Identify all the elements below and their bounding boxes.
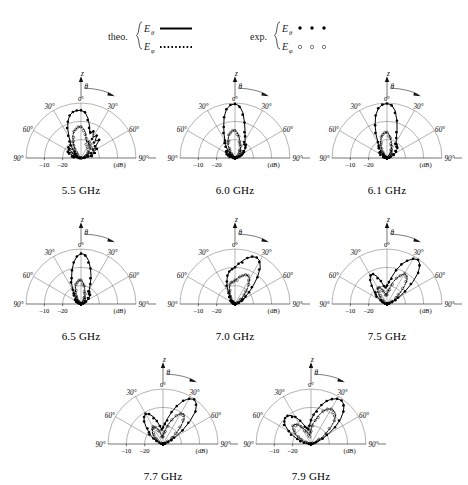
polar-plot-panel: zθx0°30°30°60°60°90°90°–10–20(dB)6.0 GHz xyxy=(160,72,310,212)
radial-unit-label: (dB) xyxy=(420,307,432,315)
z-axis-label: z xyxy=(310,358,314,364)
marker-e-theta-measured xyxy=(299,440,302,443)
polar-plot-svg: zθx0°30°30°60°60°90°90°–10–20(dB) xyxy=(236,358,386,466)
marker-e-theta-measured xyxy=(234,303,237,306)
marker-e-theta-measured xyxy=(255,256,258,259)
theta-symbol-label: θ xyxy=(239,83,243,91)
legend-exp-e-phi-base: E xyxy=(281,41,288,52)
marker-e-theta-measured xyxy=(240,300,243,303)
marker-e-theta-measured xyxy=(231,268,234,271)
marker-e-theta-measured xyxy=(87,297,90,300)
marker-e-theta-measured xyxy=(400,263,403,266)
marker-e-theta-measured xyxy=(82,157,85,160)
angle-label-right-60: 60° xyxy=(435,272,445,280)
radiation-pattern-figure: theo. E θ E φ exp. E θ E φ xyxy=(0,0,468,485)
angle-label-left-60: 60° xyxy=(253,412,263,420)
marker-e-phi-measured xyxy=(332,411,335,414)
angle-label-right-30: 30° xyxy=(412,103,423,111)
theta-direction-arrow: θ xyxy=(238,83,269,96)
marker-e-theta-measured xyxy=(320,404,323,407)
polar-plot-svg: zθx0°30°30°60°60°90°90°–10–20(dB) xyxy=(6,72,156,180)
marker-e-theta-measured xyxy=(90,152,93,155)
marker-e-theta-measured xyxy=(86,119,89,122)
marker-e-theta-measured xyxy=(310,443,313,446)
angle-label-0: 0° xyxy=(232,241,238,248)
measured-markers xyxy=(143,397,198,445)
marker-e-theta-measured xyxy=(374,293,377,296)
legend-theo-brace-icon xyxy=(137,22,143,49)
marker-e-theta-measured xyxy=(374,124,377,127)
marker-e-theta-measured xyxy=(68,140,71,143)
radial-tick-label-minus10: –10 xyxy=(192,161,204,168)
radial-tick-label-minus20: –20 xyxy=(363,307,375,314)
marker-e-theta-measured xyxy=(93,152,96,155)
marker-e-theta-measured xyxy=(331,398,334,401)
marker-e-theta-measured xyxy=(418,264,421,267)
z-axis-label: z xyxy=(234,72,238,78)
marker-e-theta-measured xyxy=(251,286,254,289)
theta-direction-arrow: θ xyxy=(390,83,421,96)
marker-e-theta-measured xyxy=(89,131,92,134)
angle-label-left-60: 60° xyxy=(105,412,115,420)
marker-e-phi-measured xyxy=(85,143,88,146)
marker-e-theta-measured xyxy=(325,400,328,403)
marker-e-theta-measured xyxy=(256,276,259,279)
marker-e-theta-measured xyxy=(187,421,190,424)
marker-e-theta-measured xyxy=(72,111,75,114)
marker-e-theta-measured xyxy=(326,434,329,437)
angle-label-right-60: 60° xyxy=(359,412,369,420)
radial-tick-label-minus10: –10 xyxy=(120,447,132,454)
marker-e-theta-measured xyxy=(382,153,385,156)
angle-label-0: 0° xyxy=(308,381,314,388)
marker-e-theta-measured xyxy=(68,114,71,117)
angle-label-right-30: 30° xyxy=(260,249,271,257)
marker-e-theta-measured xyxy=(228,270,231,273)
radial-unit-label: (dB) xyxy=(268,161,280,169)
plot-caption: 6.1 GHz xyxy=(312,184,462,196)
marker-e-theta-measured xyxy=(76,299,79,302)
radial-tick-label-minus10: –10 xyxy=(268,447,280,454)
angle-label-left-30: 30° xyxy=(125,389,136,397)
marker-e-theta-measured xyxy=(396,146,399,149)
plot-caption: 7.0 GHz xyxy=(160,330,310,342)
marker-e-theta-measured xyxy=(395,269,398,272)
z-axis-label: z xyxy=(80,72,84,78)
marker-e-theta-measured xyxy=(155,440,158,443)
z-axis-label: z xyxy=(386,72,390,78)
radial-tick-label-minus20: –20 xyxy=(57,161,69,168)
marker-e-theta-measured xyxy=(68,148,71,151)
radial-unit-label: (dB) xyxy=(344,447,356,455)
marker-e-theta-measured xyxy=(87,155,90,158)
marker-e-theta-measured xyxy=(394,112,397,115)
marker-e-theta-measured xyxy=(84,111,87,114)
radial-tick-label-minus10: –10 xyxy=(344,161,356,168)
marker-e-theta-measured xyxy=(290,433,293,436)
marker-e-theta-measured xyxy=(386,157,389,160)
z-axis-label: z xyxy=(234,218,238,224)
marker-e-theta-measured xyxy=(163,423,166,426)
marker-e-theta-measured xyxy=(244,146,247,149)
marker-e-theta-measured xyxy=(248,291,251,294)
legend-theo-e-phi-base: E xyxy=(143,41,150,52)
angle-label-left-60: 60° xyxy=(177,126,187,134)
marker-e-theta-measured xyxy=(391,301,394,304)
marker-e-theta-measured xyxy=(396,120,399,123)
plot-caption: 7.9 GHz xyxy=(236,470,386,482)
marker-e-theta-measured xyxy=(369,279,372,282)
polar-plot-panel: zθx0°30°30°60°60°90°90°–10–20(dB)7.9 GHz xyxy=(236,358,386,485)
angle-label-right-90: 90° xyxy=(444,301,454,309)
marker-e-theta-measured xyxy=(76,255,79,258)
marker-e-theta-measured xyxy=(294,416,297,419)
marker-e-theta-measured xyxy=(283,420,286,423)
polar-plot-svg: zθx0°30°30°60°60°90°90°–10–20(dB) xyxy=(160,72,310,180)
marker-e-theta-measured xyxy=(308,424,311,427)
marker-e-theta-measured xyxy=(224,145,227,148)
marker-e-theta-measured xyxy=(369,274,372,277)
marker-e-theta-measured xyxy=(243,141,246,144)
legend-experimental: exp. E θ E φ xyxy=(250,14,380,58)
marker-e-theta-measured xyxy=(80,303,83,306)
marker-e-theta-measured xyxy=(66,151,69,154)
radial-tick-label-minus20: –20 xyxy=(211,307,223,314)
polar-plot-panel: zθx0°30°30°60°60°90°90°–10–20(dB)5.5 GHz xyxy=(6,72,156,212)
marker-e-theta-measured xyxy=(156,420,159,423)
